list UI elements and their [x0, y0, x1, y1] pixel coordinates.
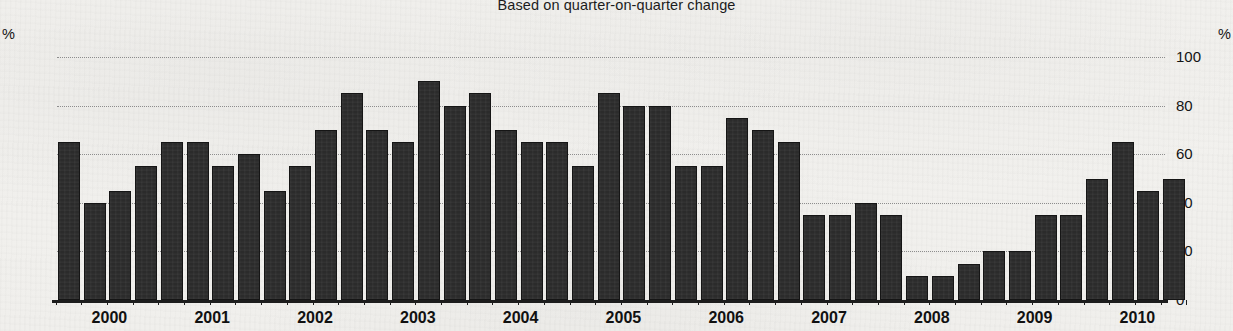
bar [264, 191, 286, 300]
x-tick [801, 300, 802, 305]
bar [598, 93, 620, 300]
x-axis-year-label: 2009 [1017, 309, 1053, 327]
bar [469, 93, 491, 300]
x-tick [724, 300, 725, 305]
x-tick [158, 300, 159, 305]
y-axis-unit-right: % [1218, 26, 1231, 42]
x-tick [878, 300, 879, 305]
x-tick [210, 300, 211, 305]
x-tick [749, 300, 750, 305]
bar-series [57, 57, 1165, 300]
x-tick [904, 300, 905, 305]
bar [289, 166, 311, 300]
bar [495, 130, 517, 300]
x-tick [1032, 300, 1033, 305]
bar [238, 154, 260, 300]
bar [109, 191, 131, 300]
bar [1060, 215, 1082, 300]
x-axis-year-label: 2001 [194, 309, 230, 327]
bar [675, 166, 697, 300]
x-tick [518, 300, 519, 305]
bar [366, 130, 388, 300]
x-tick [184, 300, 185, 305]
bar [726, 118, 748, 300]
bar [932, 276, 954, 300]
chart-subtitle: Based on quarter-on-quarter change [0, 0, 1233, 13]
x-tick [1161, 300, 1162, 305]
x-tick [133, 300, 134, 305]
x-tick [1006, 300, 1007, 305]
bar [315, 130, 337, 300]
x-tick [647, 300, 648, 305]
bar [58, 142, 80, 300]
bar [187, 142, 209, 300]
x-tick [441, 300, 442, 305]
x-tick [313, 300, 314, 305]
x-tick [775, 300, 776, 305]
x-axis-baseline [52, 300, 1168, 303]
x-tick [467, 300, 468, 305]
x-tick [107, 300, 108, 305]
x-axis-year-label: 2004 [503, 309, 539, 327]
bar [161, 142, 183, 300]
bar [1009, 251, 1031, 300]
bar [649, 106, 671, 300]
x-axis-year-label: 2007 [811, 309, 847, 327]
x-tick [1084, 300, 1085, 305]
x-tick [1135, 300, 1136, 305]
bar [958, 264, 980, 300]
x-tick [261, 300, 262, 305]
x-tick [390, 300, 391, 305]
bar [392, 142, 414, 300]
x-axis-year-label: 2008 [914, 309, 950, 327]
bar [84, 203, 106, 300]
x-tick [827, 300, 828, 305]
bar [521, 142, 543, 300]
x-tick [1058, 300, 1059, 305]
bar [752, 130, 774, 300]
x-tick [929, 300, 930, 305]
bar [1035, 215, 1057, 300]
bar [855, 203, 877, 300]
bar [1112, 142, 1134, 300]
bar [778, 142, 800, 300]
x-tick [415, 300, 416, 305]
bar [212, 166, 234, 300]
x-tick [698, 300, 699, 305]
x-tick [621, 300, 622, 305]
bar [135, 166, 157, 300]
x-tick [1109, 300, 1110, 305]
bar [906, 276, 928, 300]
x-tick [544, 300, 545, 305]
bar [701, 166, 723, 300]
x-axis-year-label: 2006 [708, 309, 744, 327]
bar [1163, 179, 1185, 301]
y-axis-unit-left: % [2, 26, 15, 42]
x-tick [364, 300, 365, 305]
x-tick [81, 300, 82, 305]
bar [803, 215, 825, 300]
plot-area: 002020404060608080100100 200020012002200… [57, 57, 1165, 300]
x-tick [1186, 300, 1187, 305]
x-tick [595, 300, 596, 305]
x-axis-year-label: 2002 [297, 309, 333, 327]
bar [983, 251, 1005, 300]
x-axis-year-label: 2003 [400, 309, 436, 327]
bar [418, 81, 440, 300]
x-tick [955, 300, 956, 305]
bar [1137, 191, 1159, 300]
x-tick [852, 300, 853, 305]
x-tick [570, 300, 571, 305]
x-tick [235, 300, 236, 305]
bar [829, 215, 851, 300]
x-tick [672, 300, 673, 305]
bar [341, 93, 363, 300]
bar [444, 106, 466, 300]
x-axis-year-label: 2000 [92, 309, 128, 327]
x-tick [492, 300, 493, 305]
x-axis-year-label: 2010 [1120, 309, 1156, 327]
y-axis-tick-right-80: 80 [1176, 98, 1222, 113]
x-axis-year-label: 2005 [606, 309, 642, 327]
bar [546, 142, 568, 300]
bar [572, 166, 594, 300]
